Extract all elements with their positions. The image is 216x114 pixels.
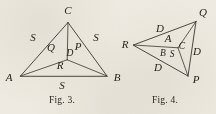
fig-4-region-label-S: S (170, 49, 175, 59)
fig-4-cevian-PC (178, 48, 188, 76)
fig-4-side-label-D-right: D (192, 45, 201, 57)
fig-3-caption: Fig. 3. (49, 95, 75, 105)
fig-3-vertex-label-C: C (64, 4, 72, 16)
fig-3-vertex-label-A: A (5, 71, 13, 83)
fig-4-side-label-D-top: D (155, 22, 164, 34)
fig-3-vertex-label-B: B (114, 71, 121, 83)
fig-3-region-label-P: P (74, 40, 82, 52)
fig-4-region-label-B: B (160, 48, 166, 58)
fig-3-side-label-S-left: S (30, 31, 36, 43)
fig-3-region-label-Q: Q (47, 41, 55, 53)
fig-4-region-label-A: A (164, 32, 172, 44)
fig-3-side-label-S-right: S (93, 31, 99, 43)
fig-3-diagram: C A B D Q P R S S S Fig. 3. Q R P C (0, 0, 216, 114)
fig-3-region-label-R: R (56, 59, 64, 71)
fig-3-interior-point-label-D: D (66, 48, 74, 58)
figure-sheet: C A B D Q P R S S S Fig. 3. Q R P C (0, 0, 216, 114)
fig-4-interior-point-label-C: C (179, 41, 186, 51)
fig-4-caption: Fig. 4. (152, 95, 178, 105)
fig-4-vertex-label-P: P (192, 73, 200, 85)
fig-4-vertex-label-Q: Q (199, 6, 207, 18)
fig-4-cevian-RC (134, 45, 179, 48)
fig-3-side-label-S-bottom: S (59, 79, 65, 91)
fig-4-side-label-D-bottom: D (153, 61, 162, 73)
fig-4-vertex-label-R: R (121, 38, 129, 50)
